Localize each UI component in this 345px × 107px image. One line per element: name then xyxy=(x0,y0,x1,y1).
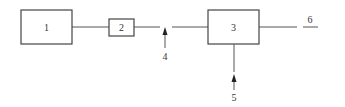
arrow-up-icon xyxy=(232,74,237,82)
block-1-label: 1 xyxy=(44,22,49,33)
input-arrow-4: 4 xyxy=(163,27,168,62)
input-5-label: 5 xyxy=(232,92,237,103)
block-3: 3 xyxy=(208,10,259,44)
input-arrow-5: 5 xyxy=(232,44,237,103)
input-4-label: 4 xyxy=(163,51,168,62)
arrow-up-icon xyxy=(163,27,168,35)
block-1: 1 xyxy=(21,10,72,44)
block-3-label: 3 xyxy=(231,22,236,33)
output-6-label: 6 xyxy=(308,14,313,25)
block-2-label: 2 xyxy=(119,22,124,33)
block-diagram: 1 2 3 4 5 6 xyxy=(0,0,345,107)
block-2: 2 xyxy=(109,19,134,36)
